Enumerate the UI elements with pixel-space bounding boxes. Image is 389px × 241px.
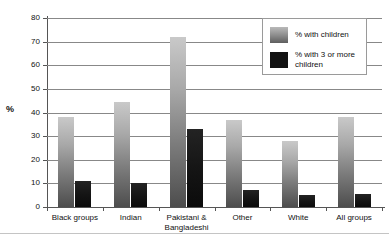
bar	[58, 117, 74, 207]
gridline	[47, 183, 382, 184]
y-tick-mark	[43, 136, 47, 137]
gridline	[47, 160, 382, 161]
y-tick-label: 0	[18, 203, 40, 211]
bar-chart: % 01020304050607080 Black groupsIndianPa…	[0, 0, 389, 241]
x-axis-line	[47, 207, 385, 208]
bar	[131, 183, 147, 207]
x-category-label: Other	[211, 213, 275, 223]
black-swatch	[270, 52, 288, 68]
y-axis-title: %	[6, 104, 14, 114]
y-tick-mark	[43, 89, 47, 90]
x-tick-mark	[215, 207, 216, 211]
gridline	[47, 136, 382, 137]
x-category-label: Pakistani & Bangladeshi	[155, 213, 219, 232]
gridline	[47, 113, 382, 114]
y-tick-mark	[43, 65, 47, 66]
bar	[243, 190, 259, 207]
y-tick-label: 60	[18, 61, 40, 69]
legend-label: % with 3 or more children	[295, 50, 367, 69]
y-tick-label: 20	[18, 156, 40, 164]
bar	[75, 181, 91, 207]
x-category-label: White	[266, 213, 330, 223]
y-tick-label: 40	[18, 109, 40, 117]
x-tick-mark	[382, 207, 383, 211]
bar	[338, 117, 354, 207]
y-tick-mark	[43, 113, 47, 114]
x-tick-mark	[47, 207, 48, 211]
legend-label: % with children	[295, 30, 367, 40]
y-tick-mark	[43, 160, 47, 161]
y-tick-mark	[43, 42, 47, 43]
x-tick-mark	[103, 207, 104, 211]
y-tick-label: 70	[18, 38, 40, 46]
x-category-label: Black groups	[43, 213, 107, 223]
x-tick-mark	[159, 207, 160, 211]
y-tick-label: 30	[18, 132, 40, 140]
bar	[282, 141, 298, 207]
bar	[114, 102, 130, 207]
gray-gradient-swatch	[270, 27, 288, 43]
footer-divider	[0, 233, 389, 234]
bar	[187, 129, 203, 207]
x-tick-mark	[326, 207, 327, 211]
chart-legend: % with children % with 3 or more childre…	[262, 18, 367, 75]
x-tick-mark	[270, 207, 271, 211]
bar	[170, 37, 186, 207]
y-tick-mark	[43, 18, 47, 19]
y-tick-label: 50	[18, 85, 40, 93]
y-tick-label: 10	[18, 179, 40, 187]
gridline	[47, 89, 382, 90]
x-category-label: All groups	[322, 213, 386, 223]
x-category-label: Indian	[99, 213, 163, 223]
bar	[299, 195, 315, 207]
y-tick-label: 80	[18, 14, 40, 22]
y-tick-mark	[43, 183, 47, 184]
bar	[226, 120, 242, 207]
bar	[355, 194, 371, 207]
